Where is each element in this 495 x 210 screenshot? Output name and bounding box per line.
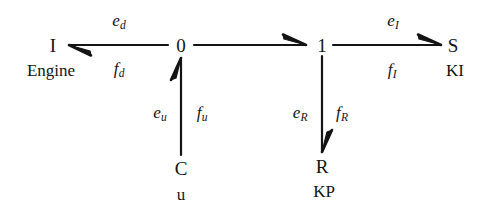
element-inertia-sublabel: Engine (27, 62, 75, 79)
effort-subscript: u (161, 111, 167, 124)
effort-subscript: d (120, 19, 126, 32)
bond-zero-to-inertia-effort-label: ed (112, 12, 125, 29)
element-capacitance-symbol: C (175, 159, 188, 178)
bond-one-to-source-effort-label: eI (387, 12, 398, 29)
element-inertia-symbol: I (50, 36, 56, 55)
junction-zero-symbol: 0 (176, 36, 186, 55)
bond-one-to-source (333, 35, 441, 46)
bond-graph-diagram: I Engine 0 1 S KI C u R KP ed fd eI fI e… (0, 0, 495, 210)
element-resistance-sublabel: KP (313, 183, 335, 200)
effort-subscript: I (395, 19, 399, 32)
bond-capacitance-to-zero-flow-label: fu (197, 104, 208, 121)
bond-one-to-source-flow-label: fI (388, 61, 397, 78)
bond-one-to-resistance-effort-label: eR (293, 104, 308, 121)
effort-symbol: e (293, 103, 301, 122)
flow-subscript: R (341, 111, 348, 124)
element-source-symbol: S (448, 36, 459, 55)
bond-zero-to-one (194, 35, 306, 46)
bond-one-to-resistance-flow-label: fR (336, 104, 348, 121)
bond-zero-to-inertia (69, 45, 168, 56)
element-resistance-symbol: R (316, 157, 329, 176)
flow-subscript: d (119, 67, 125, 80)
junction-one-symbol: 1 (317, 36, 327, 55)
bond-one-to-resistance (322, 56, 332, 152)
flow-subscript: u (202, 111, 208, 124)
effort-subscript: R (300, 111, 307, 124)
bond-graph-canvas (0, 0, 495, 210)
effort-symbol: e (153, 103, 161, 122)
element-source-sublabel: KI (446, 62, 464, 79)
effort-symbol: e (387, 11, 395, 30)
bond-capacitance-to-zero-effort-label: eu (153, 104, 166, 121)
bond-zero-to-inertia-flow-label: fd (114, 60, 125, 77)
bond-capacitance-to-zero (171, 58, 181, 155)
flow-subscript: I (393, 68, 397, 81)
effort-symbol: e (112, 11, 120, 30)
element-capacitance-sublabel: u (177, 186, 186, 203)
